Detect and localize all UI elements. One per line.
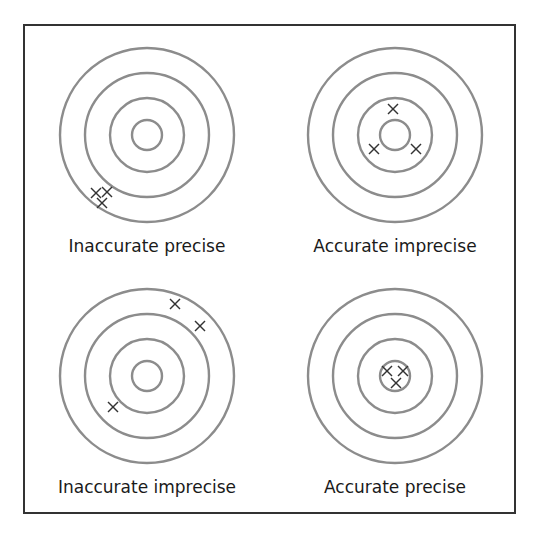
ring-3 xyxy=(358,98,432,172)
ring-4 xyxy=(132,361,162,391)
ring-2 xyxy=(85,73,209,197)
target-rings xyxy=(305,286,485,466)
cross-mark-icon xyxy=(195,321,205,331)
cross-mark-icon xyxy=(97,198,107,208)
target-rings xyxy=(57,45,237,225)
ring-4 xyxy=(132,120,162,150)
ring-3 xyxy=(110,98,184,172)
cross-mark-icon xyxy=(91,188,101,198)
label-inaccurate-imprecise: Inaccurate imprecise xyxy=(27,477,267,497)
ring-2 xyxy=(85,314,209,438)
cross-mark-icon xyxy=(382,366,392,376)
cross-mark-icon xyxy=(369,144,379,154)
ring-2 xyxy=(333,73,457,197)
target-rings xyxy=(57,286,237,466)
cross-mark-icon xyxy=(170,299,180,309)
ring-3 xyxy=(110,339,184,413)
cross-mark-icon xyxy=(102,187,112,197)
ring-4 xyxy=(380,120,410,150)
label-inaccurate-precise: Inaccurate precise xyxy=(27,236,267,256)
target-rings xyxy=(305,45,485,225)
label-accurate-imprecise: Accurate imprecise xyxy=(275,236,515,256)
ring-4 xyxy=(380,361,410,391)
label-accurate-precise: Accurate precise xyxy=(275,477,515,497)
cross-mark-icon xyxy=(398,366,408,376)
ring-3 xyxy=(358,339,432,413)
cross-mark-icon xyxy=(391,378,401,388)
ring-2 xyxy=(333,314,457,438)
cross-mark-icon xyxy=(411,144,421,154)
cross-mark-icon xyxy=(388,104,398,114)
cross-mark-icon xyxy=(108,402,118,412)
